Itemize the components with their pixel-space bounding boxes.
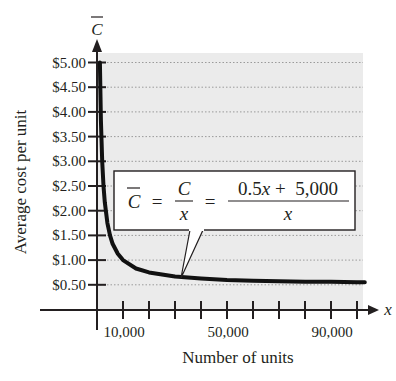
x-tick-label: 50,000: [207, 324, 248, 340]
y-tick-label: $1.50: [52, 227, 86, 243]
x-axis-arrow-icon: [368, 305, 379, 315]
y-tick-label: $2.50: [52, 178, 86, 194]
y-tick-label: $3.00: [52, 153, 86, 169]
y-tick-label: $4.50: [52, 79, 86, 95]
x-axis-variable-label: x: [383, 300, 392, 319]
fraction1-numerator: C: [178, 178, 191, 199]
y-tick-label: $4.00: [52, 104, 86, 120]
y-tick-label: $1.00: [52, 252, 86, 268]
y-tick-label: $3.50: [52, 129, 86, 145]
y-axis-variable-label: C: [91, 17, 103, 39]
fraction2-denominator: x: [283, 203, 293, 224]
y-axis-title: Average cost per unit: [11, 109, 30, 254]
y-axis-arrow-icon: [92, 39, 102, 52]
x-tick-label: 90,000: [311, 324, 352, 340]
y-tick-label: $0.50: [52, 277, 86, 293]
equation-lhs: C: [128, 191, 141, 212]
fraction2-numerator: 0.5x + 5,000: [238, 178, 338, 199]
y-tick-label: $5.00: [52, 55, 86, 71]
equation-equals-2: =: [205, 191, 216, 212]
x-axis-title: Number of units: [182, 348, 293, 367]
average-cost-chart: $0.50$1.00$1.50$2.00$2.50$3.00$3.50$4.00…: [0, 0, 396, 381]
x-tick-label: 10,000: [103, 324, 144, 340]
fraction1-denominator: x: [179, 203, 189, 224]
svg-text:C: C: [91, 20, 103, 39]
equation-equals-1: =: [152, 191, 163, 212]
y-tick-label: $2.00: [52, 203, 86, 219]
